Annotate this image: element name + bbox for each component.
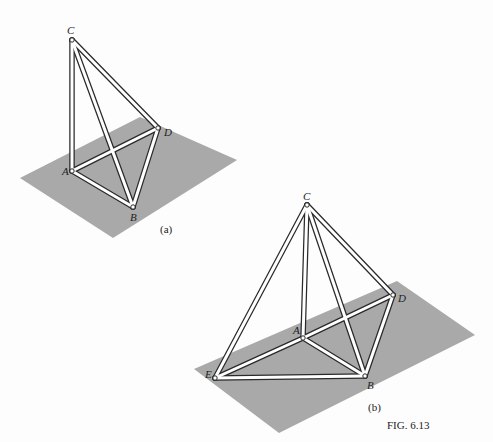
joint-a-C [70, 38, 74, 42]
label-a-D: D [163, 126, 172, 138]
joint-b-D [391, 293, 395, 297]
label-a-A: A [61, 165, 69, 177]
label-b-A: A [292, 324, 300, 336]
joint-b-E [213, 376, 217, 380]
panel-a: C A B D (a) [20, 24, 237, 238]
panel-b: C A B D E (b) [194, 190, 475, 433]
label-b-D: D [397, 292, 406, 304]
caption-b: (b) [368, 401, 381, 414]
label-a-C: C [67, 24, 75, 36]
figure-6-13: C A B D (a) [0, 0, 493, 442]
joint-a-A [70, 169, 74, 173]
label-b-B: B [367, 379, 374, 391]
caption-a: (a) [160, 223, 173, 236]
label-a-B: B [130, 211, 137, 223]
label-b-E: E [204, 368, 212, 380]
joint-a-D [156, 126, 160, 130]
figure-caption: FIG. 6.13 [387, 419, 430, 431]
joint-a-B [131, 205, 135, 209]
ground-plane-a [20, 117, 237, 238]
joint-b-B [363, 374, 367, 378]
label-b-C: C [303, 190, 311, 202]
joint-b-C [305, 203, 309, 207]
joint-b-A [301, 336, 305, 340]
diagram-canvas: C A B D (a) [0, 0, 493, 442]
